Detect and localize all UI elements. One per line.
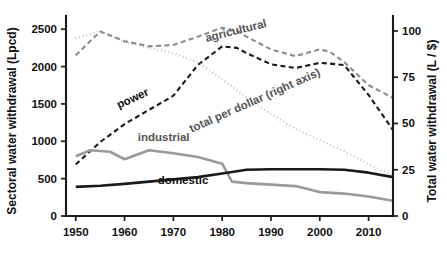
y-axis-left-tick-label: 1500: [31, 98, 57, 110]
y-axis-right-tick-label: 75: [402, 71, 415, 83]
y-axis-left-title: Sectoral water withdrawal (Lpcd): [5, 27, 19, 214]
series-label-domestic: domestic: [158, 174, 209, 186]
y-axis-right-tick-label: 25: [402, 164, 415, 176]
sectoral-water-withdrawal-chart: 0500100015002000250002550751001950196019…: [0, 0, 447, 262]
y-axis-left-tick-label: 2500: [31, 23, 57, 35]
series-label-industrial: industrial: [138, 131, 190, 143]
y-axis-left-tick-label: 500: [38, 173, 57, 185]
y-axis-left-tick-label: 2000: [31, 61, 57, 73]
x-axis-tick-label: 1970: [161, 226, 187, 238]
x-axis-tick-label: 1980: [209, 226, 235, 238]
x-axis-tick-label: 2000: [307, 226, 333, 238]
x-axis-tick-label: 1950: [63, 226, 89, 238]
y-axis-left-tick-label: 0: [51, 210, 57, 222]
y-axis-right-tick-label: 0: [402, 210, 408, 222]
x-axis-tick-label: 2010: [356, 226, 382, 238]
x-axis-tick-label: 1990: [258, 226, 284, 238]
y-axis-right-tick-label: 50: [402, 117, 415, 129]
y-axis-right-title: Total water withdrawal (L / $): [425, 40, 439, 203]
x-axis-tick-label: 1960: [112, 226, 138, 238]
chart-container: 0500100015002000250002550751001950196019…: [0, 0, 447, 262]
y-axis-left-tick-label: 1000: [31, 135, 57, 147]
y-axis-right-tick-label: 100: [402, 25, 421, 37]
